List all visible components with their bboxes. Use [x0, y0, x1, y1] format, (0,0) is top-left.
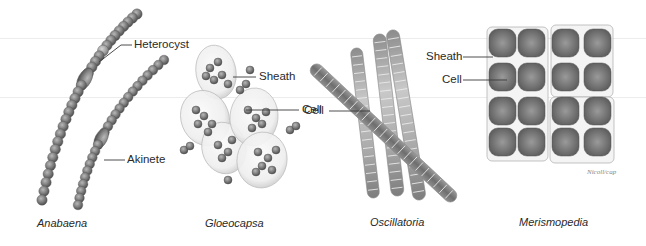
merismopedia-cell — [584, 97, 611, 125]
caption-anabaena: Anabaena — [37, 218, 87, 229]
merismopedia-cell — [489, 97, 516, 125]
gloeocapsa-cell — [258, 162, 266, 170]
merismopedia-illustration — [487, 25, 614, 163]
gloeocapsa-illustration — [173, 42, 300, 192]
heterocyst-label: Heterocyst — [134, 39, 189, 51]
vegetative-cell — [37, 195, 47, 205]
gloeocapsa-cell — [254, 148, 262, 156]
caption-oscillatoria: Oscillatoria — [370, 217, 424, 228]
gloeocapsa-cell — [210, 76, 218, 84]
merismopedia-cell — [489, 29, 516, 57]
merismopedia-cell — [518, 29, 545, 57]
gloeocapsa-cell — [224, 148, 232, 156]
merismopedia-cell — [584, 63, 611, 91]
gloeocapsa-cell — [200, 112, 208, 120]
gloeocapsa-cell — [248, 124, 256, 132]
merismopedia-cell — [518, 128, 545, 156]
merismopedia-cell — [489, 128, 516, 156]
gloeocapsa-cell — [206, 64, 214, 72]
merismopedia-cell — [489, 63, 516, 91]
caption-merismopedia: Merismopedia — [519, 217, 588, 228]
gloeocapsa-cell — [186, 142, 194, 150]
gloeocapsa-cell — [264, 154, 272, 162]
gloeocapsa-cell — [268, 166, 276, 174]
gloeocapsa-cell — [262, 108, 270, 116]
gloeocapsa-cell — [218, 71, 226, 79]
gloeocapsa-cell — [224, 80, 232, 88]
gloeocapsa-cell — [272, 146, 280, 154]
merismopedia-cell — [552, 29, 579, 57]
artist-signature: Nicoll/cap — [586, 168, 617, 176]
gloeocapsa-sheath-label: Sheath — [259, 71, 295, 83]
merismopedia-cell — [552, 97, 579, 125]
gloeocapsa-cell — [246, 66, 254, 74]
merismopedia-cell — [584, 29, 611, 57]
gloeocapsa-cell — [192, 106, 200, 114]
gloeocapsa-cell — [218, 154, 226, 162]
gloeocapsa-cell — [224, 176, 232, 184]
merismopedia-cell — [518, 63, 545, 91]
gloeocapsa-cell — [236, 86, 244, 94]
illustration-canvas: Nicoll/cap — [0, 0, 646, 246]
gloeocapsa-cell — [228, 136, 236, 144]
merismopedia-cell — [552, 63, 579, 91]
caption-gloeocapsa: Gloeocapsa — [205, 218, 264, 229]
gloeocapsa-cell — [258, 120, 266, 128]
gloeocapsa-cell — [252, 114, 260, 122]
merismopedia-cell — [584, 128, 611, 156]
merismopedia-cell — [518, 97, 545, 125]
gloeocapsa-cell — [252, 168, 260, 176]
gloeocapsa-cell — [208, 120, 216, 128]
gloeocapsa-cell — [242, 80, 250, 88]
gloeocapsa-cell — [204, 128, 212, 136]
gloeocapsa-cell — [214, 141, 222, 149]
merismopedia-cell — [552, 128, 579, 156]
akinete-label: Akinete — [127, 154, 165, 166]
oscillatoria-cell-label: Cell — [304, 105, 324, 117]
merismopedia-sheath-label: Sheath — [426, 51, 462, 63]
merismopedia-cell-label: Cell — [442, 74, 462, 86]
vegetative-cell — [73, 200, 83, 210]
gloeocapsa-cell — [202, 72, 210, 80]
cyanobacteria-figure: Nicoll/cap Heterocyst Akinete Sheath Cel… — [0, 0, 646, 246]
gloeocapsa-cell — [194, 120, 202, 128]
vegetative-cell — [39, 186, 49, 196]
gloeocapsa-cell — [292, 122, 300, 130]
gloeocapsa-cell — [214, 58, 222, 66]
